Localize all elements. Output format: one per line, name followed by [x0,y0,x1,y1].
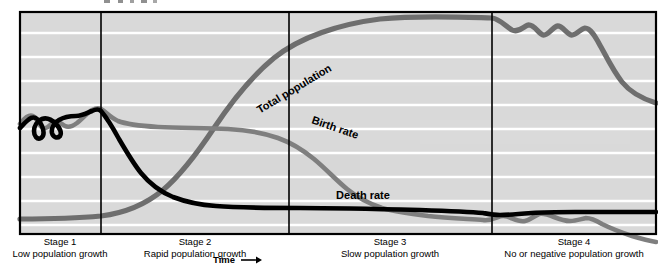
demographic-transition-figure: Total population Birth rate Death rate S… [0,0,658,267]
stage-3-title: Stage 3 [374,236,407,247]
stage-3-subtitle: Slow population growth [341,248,439,259]
stage-1-title: Stage 1 [44,236,77,247]
stage-4-title: Stage 4 [558,236,591,247]
curve-label-death-rate: Death rate [336,189,390,201]
demographic-transition-chart: Total population Birth rate Death rate S… [0,0,658,267]
time-axis-label: Time [213,254,235,265]
death-rate-label: Death rate [336,189,390,201]
stage-1-subtitle: Low population growth [12,248,107,259]
stage-2-title: Stage 2 [179,236,212,247]
stage-4-subtitle: No or negative population growth [504,248,643,259]
